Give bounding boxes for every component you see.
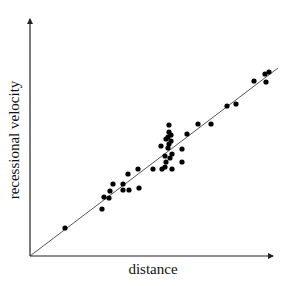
data-point: [224, 103, 229, 108]
data-point: [150, 166, 155, 171]
data-point: [135, 166, 140, 171]
data-point: [136, 185, 141, 190]
data-point: [107, 188, 112, 193]
data-point: [110, 181, 115, 186]
data-point: [184, 131, 189, 136]
data-point: [99, 206, 104, 211]
data-point: [163, 159, 168, 164]
data-point: [168, 132, 173, 137]
data-point: [251, 78, 256, 83]
data-point: [158, 143, 163, 148]
data-point: [162, 164, 167, 169]
data-point: [101, 194, 106, 199]
y-axis-label: recessional velocity: [6, 80, 22, 199]
data-point: [233, 101, 238, 106]
scatter-chart: distance recessional velocity: [0, 0, 291, 286]
data-point: [126, 187, 131, 192]
data-point: [106, 195, 111, 200]
data-point: [208, 121, 213, 126]
data-point: [120, 181, 125, 186]
data-point: [179, 146, 184, 151]
data-point: [169, 151, 174, 156]
data-point: [120, 187, 125, 192]
plot-area: [30, 68, 278, 256]
data-point: [166, 122, 171, 127]
data-point: [263, 79, 268, 84]
x-axis-label: distance: [128, 261, 177, 277]
data-point: [162, 153, 167, 158]
data-point: [169, 166, 174, 171]
data-point: [168, 138, 173, 143]
data-point: [62, 225, 67, 230]
data-point: [125, 171, 130, 176]
data-point: [195, 121, 200, 126]
data-point: [179, 159, 184, 164]
data-point: [266, 69, 271, 74]
